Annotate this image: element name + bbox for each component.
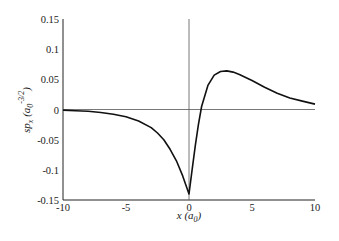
y-tick-label: 0 (54, 105, 59, 116)
y-tick-label: -0.1 (42, 165, 59, 176)
chart-canvas: 0.150.10.050-0.05-0.1-0.15-10-50510 x (a… (0, 0, 339, 241)
reference-lines (63, 19, 315, 200)
y-tick-label: -0.05 (37, 135, 59, 146)
y-axis-title: spx (a0-3/2) (17, 87, 35, 133)
x-axis-title: x (a0) (176, 209, 202, 224)
y-tick-label: 0.05 (41, 74, 59, 85)
x-tick-label: -10 (56, 202, 70, 213)
tick-labels: 0.150.10.050-0.05-0.1-0.15-10-50510 (37, 14, 320, 213)
y-tick-label: 0.15 (41, 14, 59, 25)
y-tick-label: 0.1 (46, 44, 59, 55)
x-tick-label: -5 (122, 202, 131, 213)
x-tick-label: 10 (310, 202, 321, 213)
x-tick-label: 5 (249, 202, 254, 213)
